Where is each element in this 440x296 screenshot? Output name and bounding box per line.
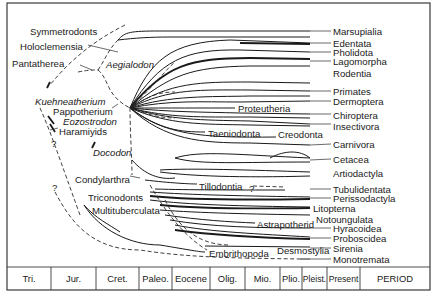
period-label: Olig. <box>218 273 237 284</box>
taxon-label: Aegialodon <box>105 59 154 70</box>
taxon-label: Dermoptera <box>333 96 384 107</box>
taxon-label: ? <box>52 182 57 193</box>
period-label: Present <box>329 274 359 284</box>
taxon-label: Proteutheria <box>238 103 291 114</box>
period-label: Eocene <box>175 273 207 284</box>
taxon-label: Embrithopoda <box>209 248 269 259</box>
taxon-label: Astrapotherid <box>257 219 314 230</box>
taxon-label: Desmostylia <box>277 245 330 256</box>
taxon-label: Haramiyids <box>59 126 107 137</box>
taxon-label: Carnivora <box>333 139 375 150</box>
taxon-labels-left: SymmetrodontsHoloclemensiaPantathereaAeg… <box>12 26 160 216</box>
period-label: Paleo. <box>142 273 169 284</box>
taxon-label: Cetacea <box>333 154 369 165</box>
period-bar: Tri.Jur.Cret.Paleo.EoceneOlig.Mio.Plio.P… <box>22 267 413 290</box>
mammal-phylogeny-diagram: MarsupialiaEdentataPholidotaLagomorphaRo… <box>0 0 440 296</box>
taxon-label: Holoclemensia <box>20 41 84 52</box>
taxon-label: Pantatherea <box>12 58 65 69</box>
taxon-label: Tillodontia <box>199 181 243 192</box>
taxon-label: Rodentia <box>333 68 372 79</box>
taxon-label: Docodon <box>93 147 131 158</box>
taxon-label: ? <box>249 183 254 194</box>
taxon-label: Chiroptera <box>333 110 378 121</box>
taxon-label: Sirenia <box>333 243 364 254</box>
taxon-label: Taeniodonta <box>208 128 261 139</box>
period-label: Tri. <box>22 273 35 284</box>
period-label: Jur. <box>66 273 81 284</box>
taxon-label: Multituberculata <box>92 205 160 216</box>
taxon-label: Litopterna <box>313 203 356 214</box>
taxon-label: Condylarthra <box>75 174 131 185</box>
period-label: Mio. <box>254 273 272 284</box>
taxon-label: Monotremata <box>333 254 390 265</box>
period-label: Pleist. <box>303 274 326 284</box>
taxon-label: Marsupialia <box>333 26 383 37</box>
taxon-label: Artiodactyla <box>333 168 384 179</box>
taxon-label: Lagomorpha <box>333 56 388 67</box>
period-label: PERIOD <box>377 273 413 284</box>
period-label: Cret. <box>107 273 127 284</box>
taxon-label: Insectivora <box>333 121 380 132</box>
period-label: Plio. <box>282 273 300 284</box>
taxon-label: Triconodonts <box>88 192 143 203</box>
taxon-label: Creodonta <box>278 129 323 140</box>
taxon-label: ? <box>51 138 56 149</box>
taxon-label: Symmetrodonts <box>30 26 97 37</box>
